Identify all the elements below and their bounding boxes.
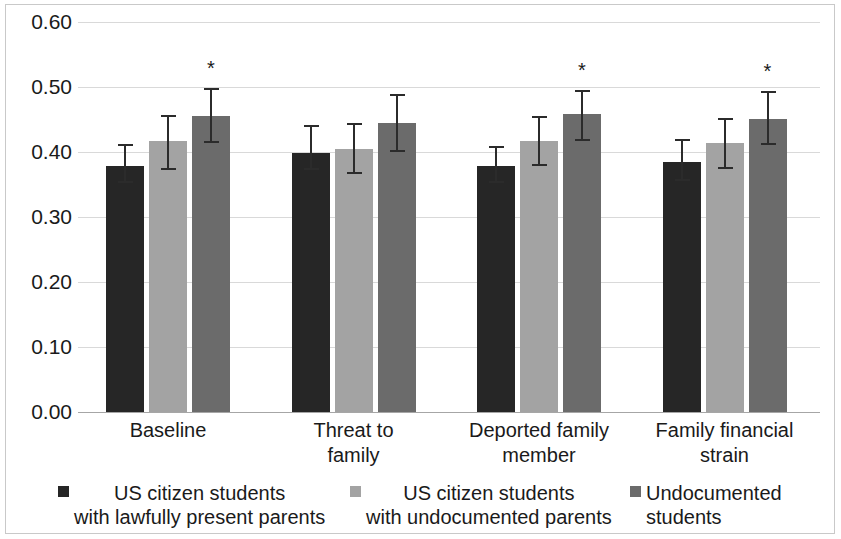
error-bar-stem: [724, 118, 726, 169]
error-bar-cap-bottom: [161, 168, 176, 170]
error-bar-cap-top: [347, 123, 362, 125]
legend-label: Undocumentedstudents: [646, 481, 782, 529]
error-bar-stem: [681, 139, 683, 181]
error-bar: [335, 123, 373, 174]
legend-swatch-icon: [630, 486, 641, 497]
significance-marker: *: [563, 60, 601, 80]
bar: [335, 149, 373, 412]
error-bar-cap-top: [304, 125, 319, 127]
legend-swatch-icon: [58, 486, 69, 497]
error-bar-cap-bottom: [575, 139, 590, 141]
error-bar-cap-bottom: [347, 172, 362, 174]
y-axis-tick-label: 0.30: [6, 206, 72, 227]
error-bar: [663, 139, 701, 181]
error-bar-cap-top: [390, 94, 405, 96]
error-bar-stem: [210, 88, 212, 143]
error-bar: [378, 94, 416, 153]
y-axis-tick-label: 0.10: [6, 336, 72, 357]
bar: [749, 119, 787, 412]
y-axis-tick-label: 0.60: [6, 11, 72, 32]
error-bar-cap-bottom: [718, 167, 733, 169]
legend-label: US citizen studentswith lawfully present…: [74, 481, 325, 529]
bar: [106, 166, 144, 412]
error-bar-cap-top: [489, 146, 504, 148]
error-bar-cap-top: [575, 90, 590, 92]
significance-marker: *: [749, 61, 787, 81]
legend-item[interactable]: US citizen studentswith lawfully present…: [58, 481, 325, 529]
error-bar-cap-top: [118, 144, 133, 146]
error-bar-stem: [396, 94, 398, 153]
error-bar-cap-bottom: [304, 168, 319, 170]
error-bar: [106, 144, 144, 183]
error-bar-stem: [538, 116, 540, 166]
bar: [663, 162, 701, 412]
x-axis-category-labels: BaselineThreat tofamilyDeported familyme…: [78, 418, 820, 476]
x-axis-category-label: Deported familymember: [446, 418, 632, 468]
bar: [378, 123, 416, 412]
y-axis-tick-label: 0.00: [6, 401, 72, 422]
error-bar: [520, 116, 558, 166]
y-axis-tick-labels: 0.600.500.400.300.200.100.00: [4, 22, 72, 412]
error-bar-stem: [581, 90, 583, 141]
plot-area: ***: [78, 22, 820, 412]
y-axis-tick-label: 0.50: [6, 76, 72, 97]
error-bar-cap-top: [204, 88, 219, 90]
error-bar-cap-bottom: [118, 181, 133, 183]
bar: [563, 114, 601, 412]
gridline: [78, 22, 820, 23]
error-bar: [477, 146, 515, 184]
error-bar-stem: [767, 91, 769, 146]
error-bar-cap-top: [532, 116, 547, 118]
bar: [192, 116, 230, 412]
error-bar-cap-bottom: [489, 181, 504, 183]
x-axis-category-label: Family financialstrain: [632, 418, 818, 468]
error-bar-cap-bottom: [532, 164, 547, 166]
error-bar-cap-top: [718, 118, 733, 120]
error-bar-cap-bottom: [761, 143, 776, 145]
error-bar-cap-bottom: [390, 150, 405, 152]
bar-chart-figure: 0.600.500.400.300.200.100.00 *** Baselin…: [0, 0, 841, 539]
error-bar-cap-top: [675, 139, 690, 141]
x-axis-category-label: Threat tofamily: [261, 418, 447, 468]
error-bar-cap-bottom: [204, 141, 219, 143]
error-bar: [563, 90, 601, 141]
x-axis-category-label: Baseline: [75, 418, 261, 443]
error-bar: [149, 115, 187, 170]
error-bar-stem: [495, 146, 497, 184]
legend-item[interactable]: Undocumentedstudents: [630, 481, 782, 529]
error-bar: [192, 88, 230, 143]
error-bar-stem: [353, 123, 355, 174]
error-bar-cap-bottom: [675, 179, 690, 181]
error-bar: [292, 125, 330, 170]
bar: [292, 153, 330, 412]
error-bar-stem: [167, 115, 169, 170]
y-axis-tick-label: 0.20: [6, 271, 72, 292]
y-axis-tick-label: 0.40: [6, 141, 72, 162]
legend-item[interactable]: US citizen studentswith undocumented par…: [350, 481, 612, 529]
error-bar: [749, 91, 787, 146]
error-bar-cap-top: [761, 91, 776, 93]
gridline: [78, 87, 820, 88]
x-axis-line: [78, 412, 820, 413]
legend-swatch-icon: [350, 486, 361, 497]
error-bar-stem: [310, 125, 312, 170]
chart-legend: US citizen studentswith lawfully present…: [20, 481, 820, 531]
bar: [149, 141, 187, 412]
significance-marker: *: [192, 58, 230, 78]
bar: [477, 166, 515, 412]
bar: [520, 141, 558, 412]
error-bar-stem: [124, 144, 126, 183]
error-bar: [706, 118, 744, 169]
bar: [706, 143, 744, 412]
legend-label: US citizen studentswith undocumented par…: [366, 481, 612, 529]
error-bar-cap-top: [161, 115, 176, 117]
